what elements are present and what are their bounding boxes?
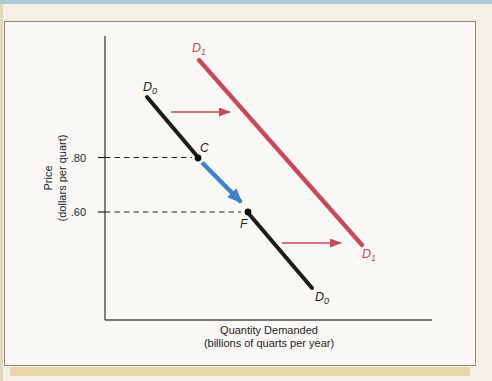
- textbook-figure-page: .80 .60 Price (dollars per quart) Quanti…: [0, 0, 492, 381]
- x-axis-title-line2: (billions of quarts per year): [204, 337, 334, 349]
- d1-label-bottom: D1: [362, 247, 376, 263]
- x-axis-title-line1: Quantity Demanded: [220, 324, 318, 336]
- d0-label-top-letter: D: [143, 80, 152, 94]
- point-f-dot: [245, 209, 252, 216]
- y-tick-label-80: .80: [71, 152, 86, 164]
- d0-label-bottom-letter: D: [315, 290, 324, 304]
- d0-curve-lower-segment: [249, 214, 312, 288]
- d0-label-top: D0: [143, 80, 157, 96]
- point-c-dot: [195, 155, 202, 162]
- d1-label-top-letter: D: [192, 41, 201, 55]
- d1-demand-curve: [199, 60, 362, 245]
- y-axis-title-line2: (dollars per quart): [56, 135, 68, 222]
- y-axis-title-line1: Price: [42, 165, 54, 190]
- d1-label-top-subscript: 1: [201, 47, 206, 57]
- y-tick-label-60: .60: [71, 206, 86, 218]
- d0-label-bottom-subscript: 0: [324, 296, 329, 306]
- d1-label-bottom-letter: D: [362, 247, 371, 261]
- d1-label-bottom-subscript: 1: [371, 253, 376, 263]
- d0-label-bottom: D0: [315, 290, 329, 306]
- d1-label-top: D1: [192, 41, 206, 57]
- point-f-label: F: [240, 217, 248, 231]
- d0-curve-upper-segment: [147, 97, 197, 156]
- movement-arrow-c-to-f: [202, 163, 241, 203]
- d0-label-top-subscript: 0: [152, 86, 157, 96]
- point-c-label: C: [200, 141, 209, 155]
- demand-shift-chart: .80 .60 Price (dollars per quart) Quanti…: [0, 0, 492, 381]
